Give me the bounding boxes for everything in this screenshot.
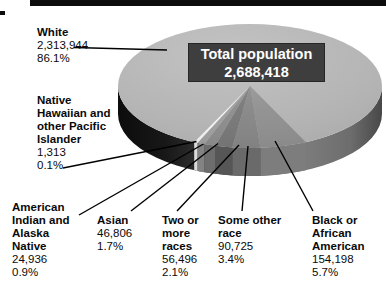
value-line: 90,725	[218, 240, 281, 253]
census-pie-figure: Total population 2,688,418 White 2,313,9…	[0, 0, 386, 288]
pct-line: 0.9%	[12, 266, 70, 279]
label-line: Indian and	[12, 214, 70, 227]
pct-line: 2.1%	[162, 266, 199, 279]
label-line: Native	[37, 94, 111, 107]
callout-asian: Asian 46,806 1.7%	[97, 214, 132, 253]
total-population-value: 2,688,418	[224, 64, 289, 80]
label-line: races	[162, 240, 199, 253]
value-line: 56,496	[162, 253, 199, 266]
label-line: Islander	[37, 133, 111, 146]
label-line: Asian	[97, 214, 132, 227]
value-line: 154,198	[312, 253, 364, 266]
pct-line: 5.7%	[312, 266, 364, 279]
callout-white: White 2,313,944 86.1%	[37, 26, 88, 65]
label-line: other Pacific	[37, 120, 111, 133]
slice-nhpi-side	[194, 142, 197, 171]
label-line: American	[12, 201, 70, 214]
label-line: American	[312, 240, 364, 253]
value-line: 24,936	[12, 253, 70, 266]
value-line: 46,806	[97, 227, 132, 240]
value-line: 1,313	[37, 146, 111, 159]
label-line: Some other	[218, 214, 281, 227]
label-line: White	[37, 26, 88, 39]
callout-black: Black or African American 154,198 5.7%	[312, 214, 364, 279]
label-line: Alaska	[12, 227, 70, 240]
total-population-box: Total population 2,688,418	[188, 43, 325, 82]
callout-aian: American Indian and Alaska Native 24,936…	[12, 201, 70, 279]
slice-asian-side	[204, 144, 215, 174]
value-line: 2,313,944	[37, 39, 88, 52]
callout-two-or-more: Two or more races 56,496 2.1%	[162, 214, 199, 279]
label-line: Hawaiian and	[37, 107, 111, 120]
label-line: Two or	[162, 214, 199, 227]
label-line: African	[312, 227, 364, 240]
callout-nhpi: Native Hawaiian and other Pacific Island…	[37, 94, 111, 172]
pct-line: 0.1%	[37, 159, 111, 172]
label-line: race	[218, 227, 281, 240]
label-line: Native	[12, 240, 70, 253]
callout-some-other: Some other race 90,725 3.4%	[218, 214, 281, 266]
total-population-label: Total population	[201, 46, 313, 62]
pct-line: 86.1%	[37, 52, 88, 65]
label-line: more	[162, 227, 199, 240]
label-line: Black or	[312, 214, 364, 227]
pct-line: 1.7%	[97, 240, 132, 253]
pct-line: 3.4%	[218, 253, 281, 266]
